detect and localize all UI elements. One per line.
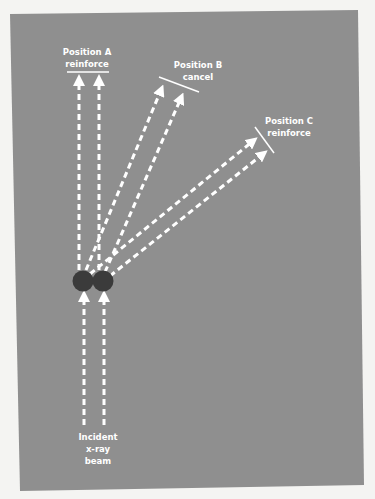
position-b-label-line1: Position B	[174, 60, 222, 70]
incident-label-line2: x-ray	[86, 444, 111, 454]
atom-1	[73, 271, 94, 292]
position-a-label-line1: Position A	[63, 47, 112, 57]
incident-label-line1: Incident	[78, 432, 117, 442]
incident-label-line3: beam	[85, 456, 112, 466]
atom-2	[93, 271, 114, 292]
diffraction-diagram: Position A reinforce Position B cancel P…	[0, 0, 375, 499]
panel-background	[10, 10, 364, 491]
position-b-label-line2: cancel	[183, 72, 214, 82]
position-a-label-line2: reinforce	[65, 59, 109, 69]
position-c-label-line2: reinforce	[267, 128, 311, 138]
position-c-label-line1: Position C	[265, 116, 313, 126]
